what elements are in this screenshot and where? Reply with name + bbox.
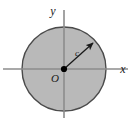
x-axis-label: x — [119, 62, 126, 76]
circle-diagram: y x O c — [0, 0, 134, 122]
origin-label: O — [51, 72, 59, 84]
radius-label: c — [75, 48, 79, 58]
figure-container: y x O c — [0, 0, 134, 122]
origin-dot — [61, 66, 67, 72]
y-axis-label: y — [49, 4, 56, 18]
